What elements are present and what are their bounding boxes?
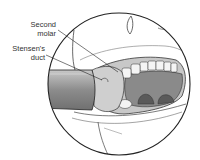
label-stensens-duct-line2: duct: [12, 54, 45, 63]
label-second-molar-line2: molar: [31, 30, 56, 39]
inset-contents: [40, 10, 200, 160]
mouth-anatomy-figure: Second molar Stensen's duct: [0, 0, 200, 160]
label-second-molar: Second molar: [31, 21, 56, 38]
buccal-mucosa: [92, 66, 124, 111]
label-stensens-duct: Stensen's duct: [12, 45, 45, 62]
